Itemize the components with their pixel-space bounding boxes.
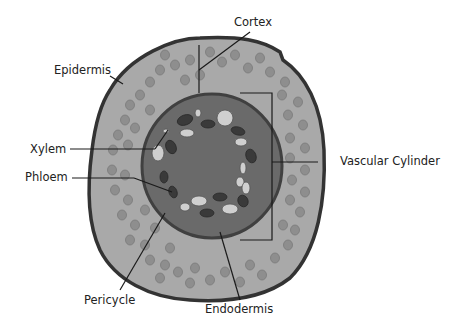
label-cortex: Cortex — [234, 17, 272, 29]
label-endodermis: Endodermis — [205, 304, 273, 316]
label-xylem: Xylem — [30, 144, 66, 156]
label-epidermis: Epidermis — [54, 65, 111, 77]
label-vascular-cylinder: Vascular Cylinder — [340, 156, 440, 168]
label-phloem: Phloem — [25, 172, 68, 184]
label-pericycle: Pericycle — [84, 295, 135, 307]
